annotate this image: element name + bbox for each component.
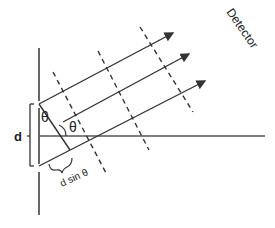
- ray-bottom: [39, 81, 205, 166]
- label-d: d: [14, 129, 22, 144]
- label-theta-top: θ: [41, 109, 49, 125]
- rays: [39, 33, 205, 166]
- ray-middle: [63, 54, 189, 122]
- label-detector: Detector: [224, 6, 261, 51]
- ray-top: [39, 33, 173, 104]
- label-theta-right: θ: [69, 119, 77, 135]
- slit-spacing-bracket: [27, 104, 34, 166]
- diffraction-diagram: d θ θ d sin θ Detector: [0, 0, 275, 228]
- wavefronts: [53, 27, 193, 173]
- path-difference-brace: [49, 158, 72, 173]
